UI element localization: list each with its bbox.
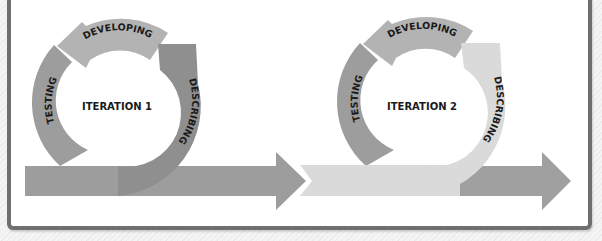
iteration-2-cycle: DEVELOPING DESCRIBING TESTING ITERATION … (300, 17, 571, 210)
testing-arc-2 (337, 43, 394, 166)
iteration-label-2: ITERATION 2 (387, 101, 457, 112)
iteration-1-cycle: DEVELOPING DESCRIBING TESTING ITERATION … (25, 19, 306, 210)
testing-arc-1 (32, 45, 88, 166)
iteration-label-1: ITERATION 1 (82, 101, 152, 112)
iteration-diagram: DEVELOPING DESCRIBING TESTING ITERATION … (0, 0, 602, 241)
